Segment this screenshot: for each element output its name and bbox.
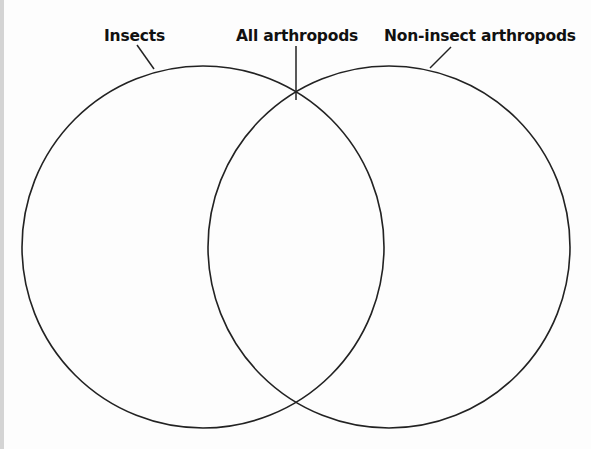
all-arthropods-label: All arthropods [236, 26, 358, 46]
non-insect-leader-line [430, 47, 451, 68]
non-insect-arthropods-label: Non-insect arthropods [384, 26, 576, 46]
insects-leader-line [137, 45, 154, 69]
venn-diagram [0, 0, 591, 449]
insects-label: Insects [104, 26, 165, 46]
insects-circle [22, 66, 384, 428]
non-insect-arthropods-circle [208, 66, 570, 428]
